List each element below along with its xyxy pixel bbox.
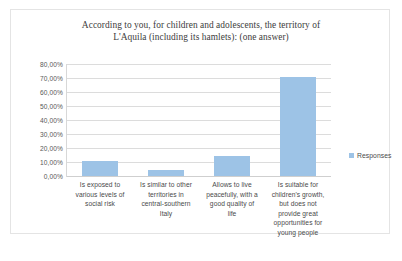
x-axis-label-line: provide great xyxy=(265,209,331,219)
y-tick-label-80: 80,00% xyxy=(19,61,63,68)
bar[interactable] xyxy=(280,77,316,176)
y-tick-label-50: 50,00% xyxy=(19,103,63,110)
x-axis-label-line: but does not xyxy=(265,199,331,209)
y-tick-label-0: 0,00% xyxy=(19,173,63,180)
x-axis-label-line: Allows to live xyxy=(199,180,265,190)
bar-slot xyxy=(67,64,133,176)
chart-title-line-1: According to you, for children and adole… xyxy=(37,19,365,31)
bar[interactable] xyxy=(82,161,118,176)
y-axis-tick-labels: 80,00%70,00%60,00%50,00%40,00%30,00%20,0… xyxy=(17,64,63,176)
bar-slot xyxy=(133,64,199,176)
y-tick-label-70: 70,00% xyxy=(19,75,63,82)
chart-title-line-2: L'Aquila (including its hamlets): (one a… xyxy=(37,31,365,43)
legend-swatch-responses xyxy=(349,153,354,158)
x-axis-label-line: Is similar to other xyxy=(133,180,199,190)
bar-slot xyxy=(199,64,265,176)
x-axis-label-line: social risk xyxy=(67,199,133,209)
x-axis-label-line: life xyxy=(199,209,265,219)
x-axis-label-line: Is exposed to xyxy=(67,180,133,190)
x-axis-label-line: various levels of xyxy=(67,190,133,200)
x-axis-label-line: good quality of xyxy=(199,199,265,209)
gridline-0 xyxy=(67,176,331,177)
legend-label-responses: Responses xyxy=(357,152,391,159)
y-tick-label-20: 20,00% xyxy=(19,145,63,152)
x-axis-label-line: Italy xyxy=(133,209,199,219)
x-axis-label-line: young people xyxy=(265,228,331,238)
bar[interactable] xyxy=(214,156,250,176)
chart-container: According to you, for children and adole… xyxy=(10,9,390,234)
y-tick-label-30: 30,00% xyxy=(19,131,63,138)
x-axis-label: Is similar to otherterritories incentral… xyxy=(133,180,199,218)
x-axis-label: Is exposed tovarious levels ofsocial ris… xyxy=(67,180,133,209)
chart-legend: Responses xyxy=(349,152,391,159)
x-axis-label-line: opportunities for xyxy=(265,218,331,228)
x-axis-label: Is suitable forchildren's growth,but doe… xyxy=(265,180,331,238)
x-axis-label-line: territories in xyxy=(133,190,199,200)
x-axis-category-labels: Is exposed tovarious levels ofsocial ris… xyxy=(67,180,331,242)
x-axis-label-line: children's growth, xyxy=(265,190,331,200)
y-tick-label-60: 60,00% xyxy=(19,89,63,96)
x-axis-label-line: Is suitable for xyxy=(265,180,331,190)
bar-slot xyxy=(265,64,331,176)
bar[interactable] xyxy=(148,170,184,176)
plot-area xyxy=(67,64,331,176)
x-axis-label: Allows to livepeacefully, with agood qua… xyxy=(199,180,265,218)
y-tick-label-40: 40,00% xyxy=(19,117,63,124)
y-tick-label-10: 10,00% xyxy=(19,159,63,166)
chart-title: According to you, for children and adole… xyxy=(37,19,365,44)
x-axis-label-line: central-southern xyxy=(133,199,199,209)
x-axis-label-line: peacefully, with a xyxy=(199,190,265,200)
